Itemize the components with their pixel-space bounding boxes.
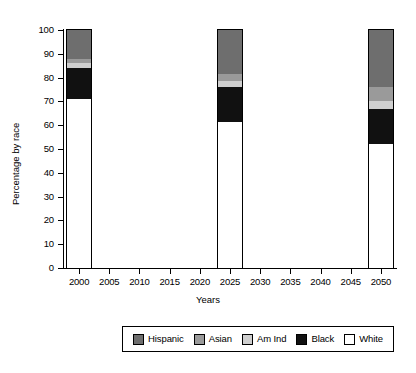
legend-swatch-icon bbox=[133, 334, 144, 345]
legend-swatch-icon bbox=[344, 334, 355, 345]
y-tick-mark bbox=[58, 244, 63, 245]
legend-swatch-icon bbox=[194, 334, 205, 345]
y-tick-label: 10 bbox=[14, 239, 54, 249]
bar-segment-hispanic bbox=[217, 29, 243, 74]
y-tick-mark bbox=[58, 149, 63, 150]
y-tick-label: 0 bbox=[14, 263, 54, 273]
y-tick-label: 100 bbox=[14, 25, 54, 35]
bar-2025 bbox=[217, 30, 243, 268]
x-tick-mark bbox=[381, 269, 382, 274]
bar-segment-white bbox=[368, 144, 394, 268]
x-tick-mark bbox=[321, 269, 322, 274]
y-axis-title: Percentage by race bbox=[10, 191, 21, 205]
x-tick-mark bbox=[260, 269, 261, 274]
legend-swatch-icon bbox=[242, 334, 253, 345]
y-tick-mark bbox=[58, 125, 63, 126]
bar-segment-am-ind bbox=[368, 100, 394, 108]
y-tick-mark bbox=[58, 268, 63, 269]
stacked-bar-chart: 0102030405060708090100 20002005201020152… bbox=[0, 0, 416, 373]
legend-label: Black bbox=[311, 334, 334, 344]
y-tick-label: 80 bbox=[14, 73, 54, 83]
y-tick-label: 70 bbox=[14, 96, 54, 106]
legend-item-am-ind: Am Ind bbox=[242, 334, 287, 345]
bar-segment-asian bbox=[368, 86, 394, 101]
y-tick-mark bbox=[58, 197, 63, 198]
legend-item-white: White bbox=[344, 334, 383, 345]
x-tick-mark bbox=[79, 269, 80, 274]
bar-segment-white bbox=[66, 99, 92, 268]
chart-legend: HispanicAsianAm IndBlackWhite bbox=[122, 326, 394, 352]
bar-segment-white bbox=[217, 122, 243, 268]
x-tick-mark bbox=[351, 269, 352, 274]
x-tick-mark bbox=[139, 269, 140, 274]
y-tick-mark bbox=[58, 101, 63, 102]
bar-segment-black bbox=[368, 108, 394, 145]
x-tick-label: 2050 bbox=[361, 277, 401, 287]
bar-segment-hispanic bbox=[66, 29, 92, 59]
y-tick-label: 90 bbox=[14, 49, 54, 59]
bar-segment-hispanic bbox=[368, 29, 394, 87]
legend-label: Hispanic bbox=[148, 334, 184, 344]
legend-item-asian: Asian bbox=[194, 334, 232, 345]
legend-item-hispanic: Hispanic bbox=[133, 334, 184, 345]
bar-segment-asian bbox=[217, 73, 243, 81]
bar-2000 bbox=[66, 30, 92, 268]
x-tick-mark bbox=[109, 269, 110, 274]
y-tick-mark bbox=[58, 173, 63, 174]
plot-area bbox=[64, 30, 396, 268]
x-tick-mark bbox=[170, 269, 171, 274]
x-tick-mark bbox=[290, 269, 291, 274]
bar-2050 bbox=[368, 30, 394, 268]
x-tick-mark bbox=[200, 269, 201, 274]
x-axis-title: Years bbox=[0, 294, 416, 305]
legend-item-black: Black bbox=[296, 334, 334, 345]
legend-label: Asian bbox=[209, 334, 232, 344]
bar-segment-black bbox=[217, 86, 243, 122]
x-tick-mark bbox=[230, 269, 231, 274]
legend-label: White bbox=[359, 334, 383, 344]
bar-segment-am-ind bbox=[217, 80, 243, 87]
y-tick-mark bbox=[58, 220, 63, 221]
y-tick-label: 20 bbox=[14, 215, 54, 225]
bar-segment-black bbox=[66, 67, 92, 99]
y-tick-mark bbox=[58, 54, 63, 55]
y-tick-mark bbox=[58, 78, 63, 79]
y-tick-mark bbox=[58, 30, 63, 31]
legend-label: Am Ind bbox=[257, 334, 287, 344]
legend-swatch-icon bbox=[296, 334, 307, 345]
